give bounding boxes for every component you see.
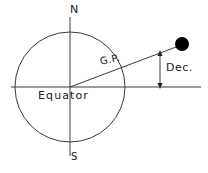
declination-label: Dec. <box>166 62 193 73</box>
declination-arrowhead-down-icon <box>157 83 162 89</box>
declination-arrowhead-up-icon <box>157 50 162 56</box>
south-pole-label: S <box>71 152 78 162</box>
celestial-body-icon <box>175 37 189 51</box>
diagram-canvas <box>0 0 208 173</box>
celestial-declination-diagram: N S Equator G.P. Dec. <box>0 0 208 173</box>
north-pole-label: N <box>70 4 79 15</box>
equator-label: Equator <box>38 90 89 101</box>
